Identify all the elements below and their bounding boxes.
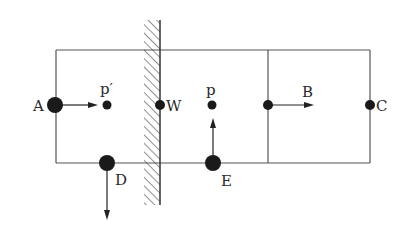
label-E: E: [221, 172, 232, 190]
point-D: [99, 155, 115, 171]
label-A: A: [32, 97, 44, 115]
hatched-wall: [144, 20, 160, 205]
point-A: [47, 97, 63, 113]
arrowhead-icon: [210, 118, 216, 128]
point-C: [365, 100, 375, 110]
label-C: C: [376, 97, 387, 115]
label-p-prime: p′: [100, 80, 114, 98]
point-B: [263, 100, 273, 110]
arrowhead-icon: [88, 102, 98, 108]
point-W: [155, 100, 165, 110]
label-D: D: [115, 171, 127, 189]
arrowhead-icon: [304, 102, 314, 108]
wall-hatching: [144, 20, 160, 205]
point-p-prime: [103, 101, 112, 110]
arrows: [60, 102, 314, 220]
label-p: p: [206, 81, 216, 99]
mechanism-diagram: A p′ W p B C D E: [0, 0, 411, 232]
arrowhead-icon: [104, 210, 110, 220]
points: [47, 97, 375, 171]
point-E: [205, 155, 221, 171]
label-W: W: [166, 97, 182, 115]
point-p: [208, 101, 217, 110]
labels: A p′ W p B C D E: [32, 80, 387, 190]
label-B: B: [302, 83, 313, 101]
